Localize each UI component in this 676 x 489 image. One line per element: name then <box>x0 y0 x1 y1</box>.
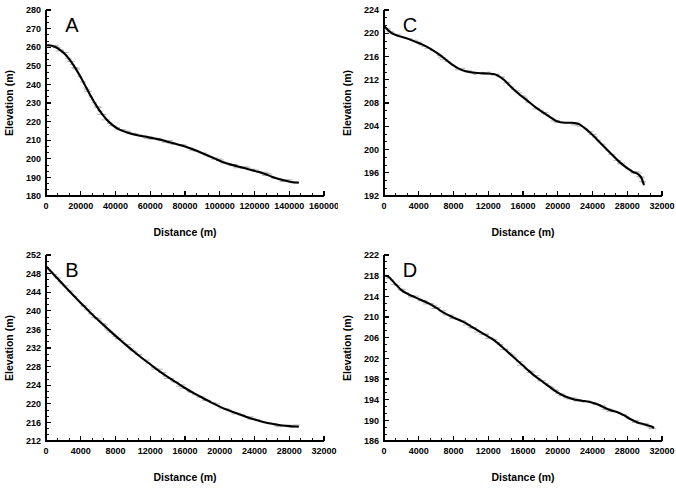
y-tick-label: 216 <box>26 418 41 428</box>
y-axis-title: Elevation (m) <box>3 70 15 136</box>
x-tick-label: 20000 <box>68 201 93 211</box>
y-axis-title: Elevation (m) <box>341 70 353 136</box>
x-tick-label: 140000 <box>274 201 304 211</box>
x-tick-label: 60000 <box>138 201 163 211</box>
x-tick-label: 4000 <box>71 446 91 456</box>
y-tick-label: 210 <box>364 312 379 322</box>
x-tick-label: 16000 <box>510 446 535 456</box>
raw-data-scatter <box>53 275 300 427</box>
x-tick-label: 16000 <box>172 446 197 456</box>
y-tick-label: 218 <box>364 271 379 281</box>
x-tick-label: 32000 <box>649 446 674 456</box>
x-tick-label: 160000 <box>309 201 338 211</box>
x-tick-label: 12000 <box>476 201 501 211</box>
y-axis-ticks: 212216220224228232236240244248252 <box>26 250 51 446</box>
x-axis-ticks: 040008000120001600020000240002800032000 <box>381 436 674 456</box>
x-axis-ticks: 040008000120001600020000240002800032000 <box>381 191 674 211</box>
x-tick-label: 8000 <box>443 446 463 456</box>
x-tick-label: 0 <box>43 201 48 211</box>
x-tick-label: 12000 <box>476 446 501 456</box>
axes-c: 1921962002042082122162202240400080001200… <box>364 5 675 211</box>
y-tick-label: 240 <box>26 306 41 316</box>
y-tick-label: 200 <box>26 154 41 164</box>
x-tick-label: 4000 <box>409 446 429 456</box>
x-tick-label: 20000 <box>545 201 570 211</box>
y-tick-label: 208 <box>364 98 379 108</box>
multi-panel-elevation-figure: 1801902002102202302402502602702800200004… <box>0 0 676 489</box>
x-axis-title: Distance (m) <box>153 226 216 238</box>
x-tick-label: 4000 <box>409 201 429 211</box>
y-tick-label: 236 <box>26 325 41 335</box>
y-axis-title: Elevation (m) <box>341 315 353 381</box>
panel-letter-d: D <box>403 259 417 281</box>
raw-data-scatter <box>48 45 298 183</box>
panel-letter-a: A <box>65 14 79 36</box>
panel-letter-c: C <box>403 14 417 36</box>
y-axis-ticks: 180190200210220230240250260270280 <box>26 5 51 201</box>
x-tick-label: 32000 <box>311 446 336 456</box>
y-tick-label: 192 <box>364 191 379 201</box>
axis-lines <box>46 255 324 441</box>
y-tick-label: 248 <box>26 269 41 279</box>
chart-svg-a: 1801902002102202302402502602702800200004… <box>0 0 338 244</box>
y-tick-label: 186 <box>364 436 379 446</box>
x-tick-label: 20000 <box>207 446 232 456</box>
x-tick-label: 8000 <box>443 201 463 211</box>
y-tick-label: 194 <box>364 395 379 405</box>
y-tick-label: 216 <box>364 52 379 62</box>
y-tick-label: 270 <box>26 24 41 34</box>
raw-data-scatter <box>384 29 645 182</box>
chart-svg-d: 1861901941982022062102142182220400080001… <box>338 245 676 489</box>
y-tick-label: 212 <box>26 436 41 446</box>
y-tick-label: 210 <box>26 135 41 145</box>
x-tick-label: 20000 <box>545 446 570 456</box>
y-tick-label: 244 <box>26 287 41 297</box>
chart-panel-c: 1921962002042082122162202240400080001200… <box>338 0 676 244</box>
y-tick-label: 280 <box>26 5 41 15</box>
x-tick-label: 24000 <box>580 446 605 456</box>
axis-lines <box>46 10 324 196</box>
elevation-curve <box>46 266 298 426</box>
y-tick-label: 206 <box>364 333 379 343</box>
y-tick-label: 260 <box>26 42 41 52</box>
y-tick-label: 240 <box>26 80 41 90</box>
y-tick-label: 198 <box>364 374 379 384</box>
x-tick-label: 12000 <box>138 446 163 456</box>
x-tick-label: 28000 <box>615 201 640 211</box>
raw-data-scatter <box>386 278 656 429</box>
y-tick-label: 232 <box>26 343 41 353</box>
y-tick-label: 250 <box>26 61 41 71</box>
axes-a: 1801902002102202302402502602702800200004… <box>26 5 338 211</box>
y-tick-label: 224 <box>364 5 379 15</box>
y-axis-ticks: 192196200204208212216220224 <box>364 5 389 201</box>
elevation-curve <box>384 26 644 185</box>
y-tick-label: 224 <box>26 380 41 390</box>
x-tick-label: 24000 <box>242 446 267 456</box>
y-tick-label: 204 <box>364 121 379 131</box>
x-tick-label: 24000 <box>580 201 605 211</box>
y-tick-label: 230 <box>26 98 41 108</box>
y-axis-ticks: 186190194198202206210214218222 <box>364 250 389 446</box>
chart-panel-d: 1861901941982022062102142182220400080001… <box>338 245 676 489</box>
x-tick-label: 40000 <box>103 201 128 211</box>
y-tick-label: 202 <box>364 354 379 364</box>
y-tick-label: 212 <box>364 75 379 85</box>
chart-panel-b: 2122162202242282322362402442482520400080… <box>0 245 338 489</box>
axis-lines <box>384 10 662 196</box>
x-axis-ticks: 0200004000060000800001000001200001400001… <box>43 191 338 211</box>
x-tick-label: 0 <box>381 446 386 456</box>
chart-svg-b: 2122162202242282322362402442482520400080… <box>0 245 338 489</box>
x-tick-label: 8000 <box>105 446 125 456</box>
x-axis-title: Distance (m) <box>153 471 216 483</box>
chart-panel-a: 1801902002102202302402502602702800200004… <box>0 0 338 244</box>
x-tick-label: 28000 <box>615 446 640 456</box>
axes-d: 1861901941982022062102142182220400080001… <box>364 250 675 456</box>
y-tick-label: 190 <box>26 173 41 183</box>
x-tick-label: 120000 <box>239 201 269 211</box>
y-tick-label: 190 <box>364 416 379 426</box>
elevation-curve <box>46 45 298 182</box>
x-tick-label: 0 <box>43 446 48 456</box>
x-axis-title: Distance (m) <box>491 471 554 483</box>
y-tick-label: 220 <box>26 399 41 409</box>
y-tick-label: 220 <box>26 117 41 127</box>
